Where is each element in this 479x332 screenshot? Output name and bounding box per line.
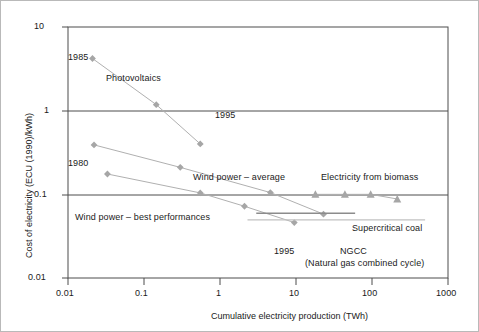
annotation-wind-best-label: Wind power – best performances [75,212,210,222]
x-axis-title: Cumulative electricity production (TWh) [211,311,368,321]
data-point-diamond [241,203,248,210]
data-point-diamond [177,164,184,171]
annotation-ngcc-sublabel: (Natural gas combined cycle) [305,258,424,268]
annotation-biomass-label: Electricity from biomass [321,172,418,182]
series-electricity-from-biomass [311,190,401,202]
data-point-diamond [89,55,96,62]
annotation-wind-average-label: Wind power – average [193,172,285,182]
ytick-label-0-01: 0.01 [28,272,46,282]
data-point-diamond [91,141,98,148]
annotation-ngcc-label: NGCC [340,246,367,256]
xtick-label-0-01: 0.01 [56,288,74,298]
xtick-label-1: 1 [216,288,221,298]
annotation-wind-best-start-year: 1980 [68,158,88,168]
series-photovoltaics [89,55,204,147]
annotation-supercritical-coal-label: Supercritical coal [352,223,422,233]
xtick-label-100: 100 [362,288,377,298]
data-point-diamond [320,211,327,218]
annotation-pv-series-label: Photovoltaics [106,73,161,83]
chart-figure: 10 1 0.1 0.01 0.01 0.1 1 10 100 1000 Cos… [0,0,479,332]
data-point-diamond [104,171,111,178]
series-line [92,59,200,144]
ytick-label-10: 10 [34,21,44,31]
xtick-label-10: 10 [289,288,299,298]
y-axis-title: Cost of electricity (ECU (1990)/kWh) [24,113,34,258]
annotation-pv-start-year: 1985 [68,52,88,62]
annotation-wind-best-end-year: 1995 [274,246,294,256]
annotation-pv-end-year: 1995 [215,110,235,120]
ytick-label-1: 1 [44,105,49,115]
ytick-label-0-1: 0.1 [34,189,47,199]
xtick-label-0-1: 0.1 [135,288,148,298]
xtick-label-1000: 1000 [436,288,456,298]
